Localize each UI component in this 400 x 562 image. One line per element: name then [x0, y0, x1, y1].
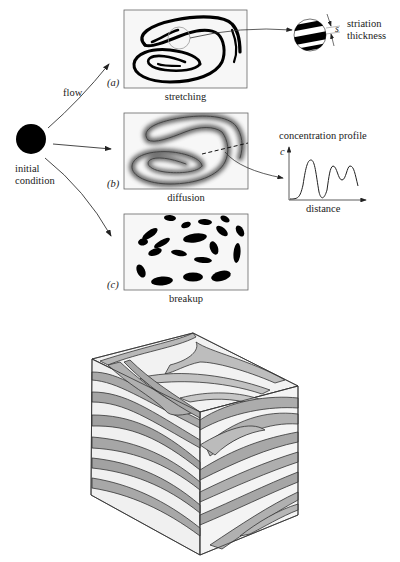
- initial-condition-blob: [16, 124, 46, 154]
- striation-label-line1: striation: [347, 18, 381, 30]
- profile-y-axis-label: c: [280, 146, 285, 158]
- profile-x-axis-label: distance: [306, 203, 340, 215]
- panel-a-stretching: [124, 10, 247, 88]
- flow-label: flow: [63, 87, 82, 99]
- panel-c-breakup: [124, 214, 248, 290]
- panel-a-tag: (a): [107, 77, 119, 89]
- initial-condition-label-line2: condition: [15, 175, 55, 187]
- striation-symbol: s: [335, 23, 339, 35]
- panel-b-tag: (b): [107, 178, 119, 190]
- striation-label-line2: thickness: [347, 30, 386, 42]
- panel-c-tag: (c): [107, 279, 119, 291]
- striated-cube: [91, 333, 298, 555]
- arrow-c: [45, 158, 111, 236]
- panel-c-caption: breakup: [124, 293, 248, 305]
- diagram-canvas: [0, 0, 400, 562]
- panel-b-diffusion: [124, 113, 248, 189]
- panel-a-caption: stretching: [124, 91, 247, 103]
- profile-title: concentration profile: [279, 130, 367, 142]
- striation-inset: [290, 14, 340, 54]
- initial-condition-label-line1: initial: [15, 163, 40, 175]
- panel-b-caption: diffusion: [124, 192, 248, 204]
- arrow-b: [53, 144, 111, 149]
- concentration-profile-plot: [289, 147, 366, 200]
